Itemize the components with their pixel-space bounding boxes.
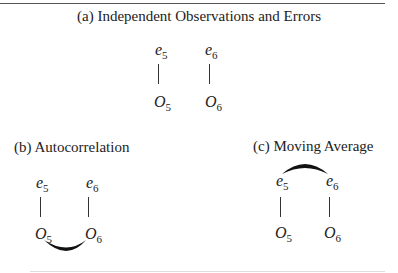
node-o5: O5 (154, 93, 171, 113)
link-e6-o6 (209, 64, 210, 84)
node-e6: e6 (326, 172, 339, 192)
panel-b-title: (b) Autocorrelation (14, 139, 129, 156)
node-e5: e5 (155, 41, 168, 61)
node-o5: O5 (275, 224, 292, 244)
link-e6-o6 (88, 197, 89, 217)
link-e6-o6 (329, 197, 330, 217)
panel-c-title: (c) Moving Average (253, 138, 374, 155)
bottom-rule (30, 271, 385, 272)
autocorrelation-arc (40, 238, 90, 258)
link-e5-o5 (158, 64, 159, 84)
node-e6: e6 (86, 174, 99, 194)
node-e5: e5 (36, 174, 49, 194)
node-e5: e5 (276, 172, 289, 192)
link-e5-o5 (280, 197, 281, 217)
link-e5-o5 (40, 197, 41, 217)
node-e6: e6 (205, 41, 218, 61)
top-rule (0, 3, 385, 4)
node-o6: O6 (205, 93, 222, 113)
node-o6: O6 (324, 224, 341, 244)
panel-a-title: (a) Independent Observations and Errors (77, 8, 321, 25)
